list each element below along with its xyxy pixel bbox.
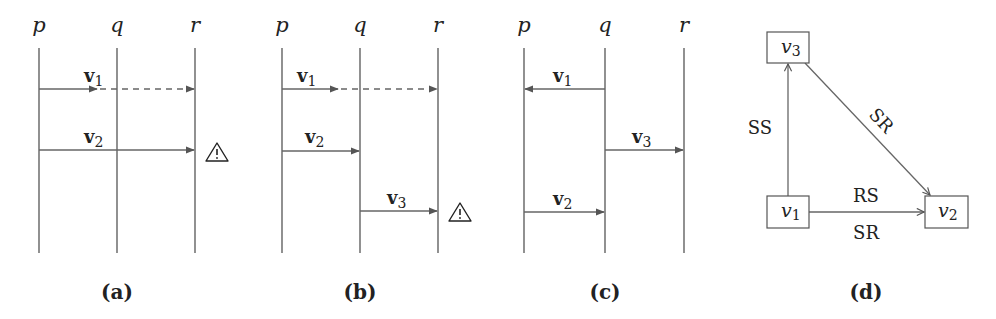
process-r-label: r: [679, 13, 691, 37]
panel-d: SS SR RS SR v3 v1 v2 (d): [748, 32, 968, 304]
process-q-label: q: [353, 13, 366, 37]
panel-b: p q r v1 v2 v3 (b): [275, 13, 471, 304]
process-r-label: r: [190, 13, 202, 37]
node-v3: v3: [767, 32, 809, 63]
message-v1-label: v1: [296, 65, 316, 89]
process-r-label: r: [433, 13, 445, 37]
message-v1-label: v1: [552, 65, 572, 89]
panel-a: p q r v1 v2 (a): [32, 13, 228, 304]
figure: p q r v1 v2 (a) p q r v1 v2: [0, 0, 996, 319]
process-q-label: q: [598, 13, 611, 37]
message-v3-label: v3: [631, 126, 651, 150]
message-v1-label: v1: [83, 65, 103, 89]
edge-v3-v2: [805, 63, 930, 195]
panel-c: p q r v1 v3 v2 (c): [517, 13, 691, 304]
message-v2-label: v2: [83, 126, 103, 150]
caption-d: (d): [850, 280, 883, 304]
message-v3-label: v3: [386, 187, 406, 211]
process-p-label: p: [32, 13, 45, 37]
process-p-label: p: [517, 13, 530, 37]
warning-icon: [206, 143, 228, 161]
caption-c: (c): [589, 280, 620, 304]
process-p-label: p: [275, 13, 288, 37]
caption-a: (a): [101, 280, 133, 304]
edge-label-rs: RS: [853, 185, 879, 206]
caption-b: (b): [344, 280, 377, 304]
warning-icon: [449, 203, 471, 221]
process-q-label: q: [110, 13, 123, 37]
message-v2-label: v2: [304, 126, 324, 150]
node-v1: v1: [767, 196, 809, 228]
edge-label-ss: SS: [748, 117, 772, 138]
message-v2-label: v2: [552, 188, 572, 212]
edge-label-sr: SR: [853, 222, 879, 243]
node-v2: v2: [925, 196, 968, 228]
